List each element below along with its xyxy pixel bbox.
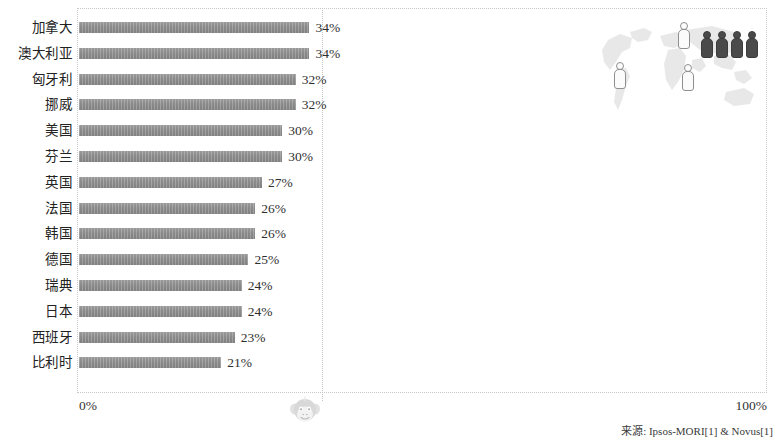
bar-row: 加拿大34% <box>0 16 783 40</box>
bar-value-label: 24% <box>248 274 273 298</box>
bar-value-label: 21% <box>227 351 252 375</box>
bar-value-label: 25% <box>254 248 279 272</box>
category-label: 匈牙利 <box>0 68 72 92</box>
category-label: 日本 <box>0 300 72 324</box>
bar-track: 30% <box>79 145 767 169</box>
bar-rows: 加拿大34%澳大利亚34%匈牙利32%挪威32%美国30%芬兰30%英国27%法… <box>0 8 783 393</box>
category-label: 美国 <box>0 119 72 143</box>
bar-row: 挪威32% <box>0 93 783 117</box>
monkey-face-icon <box>288 396 322 426</box>
bar-row: 美国30% <box>0 119 783 143</box>
bar-value-label: 24% <box>248 300 273 324</box>
bar-track: 21% <box>79 351 767 375</box>
bar-track: 25% <box>79 248 767 272</box>
bar-track: 32% <box>79 93 767 117</box>
category-label: 法国 <box>0 197 72 221</box>
bar[interactable] <box>79 125 282 136</box>
bar-track: 24% <box>79 300 767 324</box>
source-note: 来源: Ipsos-MORI[1] & Novus[1] <box>621 422 773 438</box>
bar-track: 27% <box>79 171 767 195</box>
bar-value-label: 32% <box>302 93 327 117</box>
bar[interactable] <box>79 280 242 291</box>
category-label: 德国 <box>0 248 72 272</box>
bar-track: 30% <box>79 119 767 143</box>
bar-track: 23% <box>79 326 767 350</box>
bar-value-label: 26% <box>261 222 286 246</box>
bar-track: 32% <box>79 68 767 92</box>
bar-row: 比利时21% <box>0 351 783 375</box>
bar-value-label: 26% <box>261 197 286 221</box>
bar-track: 26% <box>79 197 767 221</box>
bar-row: 法国26% <box>0 197 783 221</box>
category-label: 韩国 <box>0 222 72 246</box>
category-label: 挪威 <box>0 93 72 117</box>
bar[interactable] <box>79 48 309 59</box>
bar-track: 24% <box>79 274 767 298</box>
bar-track: 34% <box>79 42 767 66</box>
bar[interactable] <box>79 203 255 214</box>
bar-value-label: 23% <box>241 326 266 350</box>
category-label: 芬兰 <box>0 145 72 169</box>
bar-row: 芬兰30% <box>0 145 783 169</box>
bar-value-label: 32% <box>302 68 327 92</box>
bar-value-label: 34% <box>315 16 340 40</box>
bar[interactable] <box>79 22 309 33</box>
category-label: 西班牙 <box>0 326 72 350</box>
bar-row: 匈牙利32% <box>0 68 783 92</box>
bar-row: 西班牙23% <box>0 326 783 350</box>
category-label: 澳大利亚 <box>0 42 72 66</box>
bar[interactable] <box>79 99 296 110</box>
category-label: 比利时 <box>0 351 72 375</box>
bar-chart: 加拿大34%澳大利亚34%匈牙利32%挪威32%美国30%芬兰30%英国27%法… <box>0 0 783 442</box>
bar-value-label: 27% <box>268 171 293 195</box>
axis-tick-left: 0% <box>79 398 97 414</box>
bar-track: 26% <box>79 222 767 246</box>
bar-value-label: 30% <box>288 119 313 143</box>
bar-row: 德国25% <box>0 248 783 272</box>
category-label: 瑞典 <box>0 274 72 298</box>
bar[interactable] <box>79 177 262 188</box>
bar-row: 瑞典24% <box>0 274 783 298</box>
bar[interactable] <box>79 74 296 85</box>
bar-row: 日本24% <box>0 300 783 324</box>
bar-track: 34% <box>79 16 767 40</box>
bar-row: 英国27% <box>0 171 783 195</box>
category-label: 加拿大 <box>0 16 72 40</box>
bar[interactable] <box>79 151 282 162</box>
bar-row: 澳大利亚34% <box>0 42 783 66</box>
bar-value-label: 30% <box>288 145 313 169</box>
bar[interactable] <box>79 357 221 368</box>
bar[interactable] <box>79 306 242 317</box>
bar-row: 韩国26% <box>0 222 783 246</box>
bar-value-label: 34% <box>315 42 340 66</box>
axis-tick-right: 100% <box>736 398 768 414</box>
category-label: 英国 <box>0 171 72 195</box>
bar[interactable] <box>79 254 248 265</box>
bar[interactable] <box>79 228 255 239</box>
bar[interactable] <box>79 332 235 343</box>
